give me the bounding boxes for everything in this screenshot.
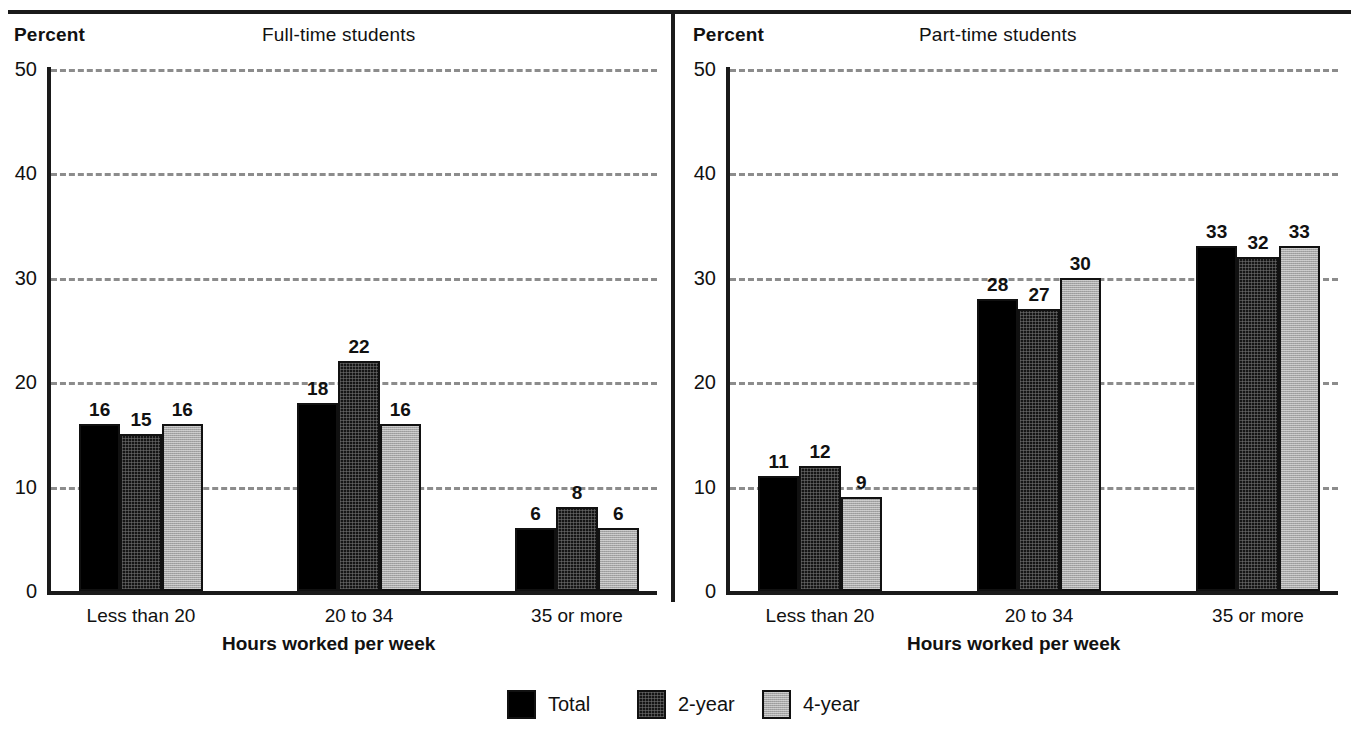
x-tick-label: 20 to 34 (325, 605, 394, 627)
bar-value-label: 27 (1028, 284, 1049, 306)
bar-value-label: 30 (1070, 253, 1091, 275)
bar-value-label: 6 (530, 503, 541, 525)
bar-2-year[interactable]: 22 (338, 361, 379, 591)
bar-group: 18221620 to 34 (297, 69, 421, 591)
y-tick-label: 10 (694, 475, 716, 498)
bar-total[interactable]: 28 (977, 299, 1018, 591)
bar-value-label: 6 (613, 503, 624, 525)
bar-group: 11129Less than 20 (758, 69, 882, 591)
y-tick-label: 40 (15, 162, 37, 185)
bar-value-label: 22 (348, 336, 369, 358)
bar-total[interactable]: 18 (297, 403, 338, 591)
bar-value-label: 28 (987, 274, 1008, 296)
y-axis-line-right (726, 67, 730, 593)
x-tick-label: Less than 20 (87, 605, 196, 627)
bar-2-year[interactable]: 32 (1237, 257, 1278, 591)
bar-value-label: 11 (769, 451, 789, 473)
y-axis-title-left: Percent (14, 24, 85, 46)
bar-total[interactable]: 6 (515, 528, 556, 591)
bar-value-label: 9 (856, 472, 867, 494)
x-axis-line-left (47, 591, 657, 595)
bar-4-year[interactable]: 16 (162, 424, 203, 591)
bar-value-label: 18 (307, 378, 328, 400)
y-tick-label: 20 (15, 371, 37, 394)
legend-item-4-year: 4-year (762, 690, 860, 719)
bar-value-label: 33 (1206, 221, 1227, 243)
x-axis-title-left: Hours worked per week (222, 633, 435, 655)
bar-total[interactable]: 33 (1196, 246, 1237, 591)
y-tick-label: 40 (694, 162, 716, 185)
bar-value-label: 32 (1247, 232, 1268, 254)
y-tick-label: 50 (694, 58, 716, 81)
dark-textured-swatch (637, 690, 666, 719)
legend-item-2-year: 2-year (637, 690, 735, 719)
bar-value-label: 16 (172, 399, 193, 421)
bar-4-year[interactable]: 33 (1279, 246, 1320, 591)
bar-value-label: 33 (1289, 221, 1310, 243)
y-axis-line-left (47, 67, 51, 593)
bar-2-year[interactable]: 12 (799, 466, 840, 591)
x-tick-label: Less than 20 (766, 605, 875, 627)
panel-title-full-time: Full-time students (262, 24, 416, 46)
legend-label-4-year: 4-year (803, 693, 860, 716)
bar-2-year[interactable]: 8 (556, 507, 597, 591)
legend-label-2-year: 2-year (678, 693, 735, 716)
bar-group: 33323335 or more (1196, 69, 1320, 591)
x-tick-label: 35 or more (1212, 605, 1304, 627)
plot-area-full-time: 01020304050161516Less than 2018221620 to… (51, 69, 657, 591)
y-tick-label: 30 (694, 266, 716, 289)
bar-2-year[interactable]: 27 (1018, 309, 1059, 591)
chart-legend: Total 2-year 4-year (0, 690, 1359, 730)
panel-full-time: Percent Full-time students 0102030405016… (0, 0, 671, 680)
y-tick-label: 20 (694, 371, 716, 394)
solid-black-swatch (507, 690, 536, 719)
bar-4-year[interactable]: 16 (380, 424, 421, 591)
y-tick-label: 10 (15, 475, 37, 498)
y-tick-label: 50 (15, 58, 37, 81)
legend-item-total: Total (507, 690, 590, 719)
x-tick-label: 20 to 34 (1005, 605, 1074, 627)
bar-value-label: 16 (390, 399, 411, 421)
bar-group: 28273020 to 34 (977, 69, 1101, 591)
bar-4-year[interactable]: 6 (598, 528, 639, 591)
bar-value-label: 15 (130, 409, 151, 431)
panel-title-part-time: Part-time students (919, 24, 1077, 46)
bar-4-year[interactable]: 30 (1060, 278, 1101, 591)
bar-value-label: 8 (572, 482, 583, 504)
bar-group: 68635 or more (515, 69, 639, 591)
bar-value-label: 16 (89, 399, 110, 421)
plot-area-part-time: 0102030405011129Less than 2028273020 to … (730, 69, 1338, 591)
x-tick-label: 35 or more (531, 605, 623, 627)
y-tick-label: 30 (15, 266, 37, 289)
y-tick-label: 0 (705, 580, 716, 603)
bar-group: 161516Less than 20 (79, 69, 203, 591)
bar-2-year[interactable]: 15 (120, 434, 161, 591)
bar-value-label: 12 (809, 441, 830, 463)
bar-total[interactable]: 11 (758, 476, 799, 591)
x-axis-title-right: Hours worked per week (907, 633, 1120, 655)
light-gray-swatch (762, 690, 791, 719)
y-axis-title-right: Percent (693, 24, 764, 46)
y-tick-label: 0 (26, 580, 37, 603)
x-axis-line-right (726, 591, 1338, 595)
bar-4-year[interactable]: 9 (841, 497, 882, 591)
bar-total[interactable]: 16 (79, 424, 120, 591)
panel-divider (671, 14, 675, 602)
panel-part-time: Percent Part-time students 0102030405011… (679, 0, 1359, 680)
legend-label-total: Total (548, 693, 590, 716)
